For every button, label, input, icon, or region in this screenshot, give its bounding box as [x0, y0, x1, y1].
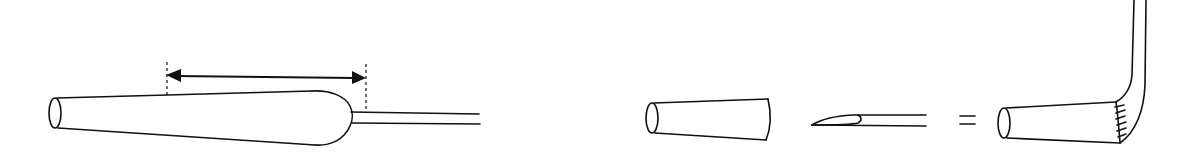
tapered-body-bottom — [58, 128, 315, 145]
pulled-pipette-figure — [49, 62, 480, 145]
truncated-cone-figure — [646, 99, 770, 140]
cone-cut-end — [766, 99, 770, 140]
open-end-ellipse — [49, 98, 61, 128]
tapered-body-top — [57, 91, 312, 98]
assembled-bent-tube-figure — [998, 0, 1146, 143]
equals-sign — [960, 116, 975, 124]
rounded-shoulder — [312, 91, 352, 145]
bent-capillary-inner — [1116, 0, 1134, 102]
capillary-stem-top — [351, 112, 479, 114]
assembly-cone-top — [1006, 102, 1116, 108]
cone-open-end-ellipse — [646, 103, 658, 133]
arrow-head-right-icon — [352, 71, 366, 84]
beveled-needle-figure — [812, 115, 926, 126]
assembly-open-end-ellipse — [998, 108, 1010, 138]
cone-top — [654, 99, 768, 103]
arrow-head-left-icon — [166, 69, 181, 82]
needle-top — [812, 115, 926, 125]
cone-bottom — [655, 133, 766, 140]
capillary-stem-bottom — [352, 123, 480, 124]
dimension-arrow-shaft — [175, 76, 355, 78]
diagram-canvas — [0, 0, 1186, 163]
assembly-cone-bottom — [1007, 138, 1120, 143]
